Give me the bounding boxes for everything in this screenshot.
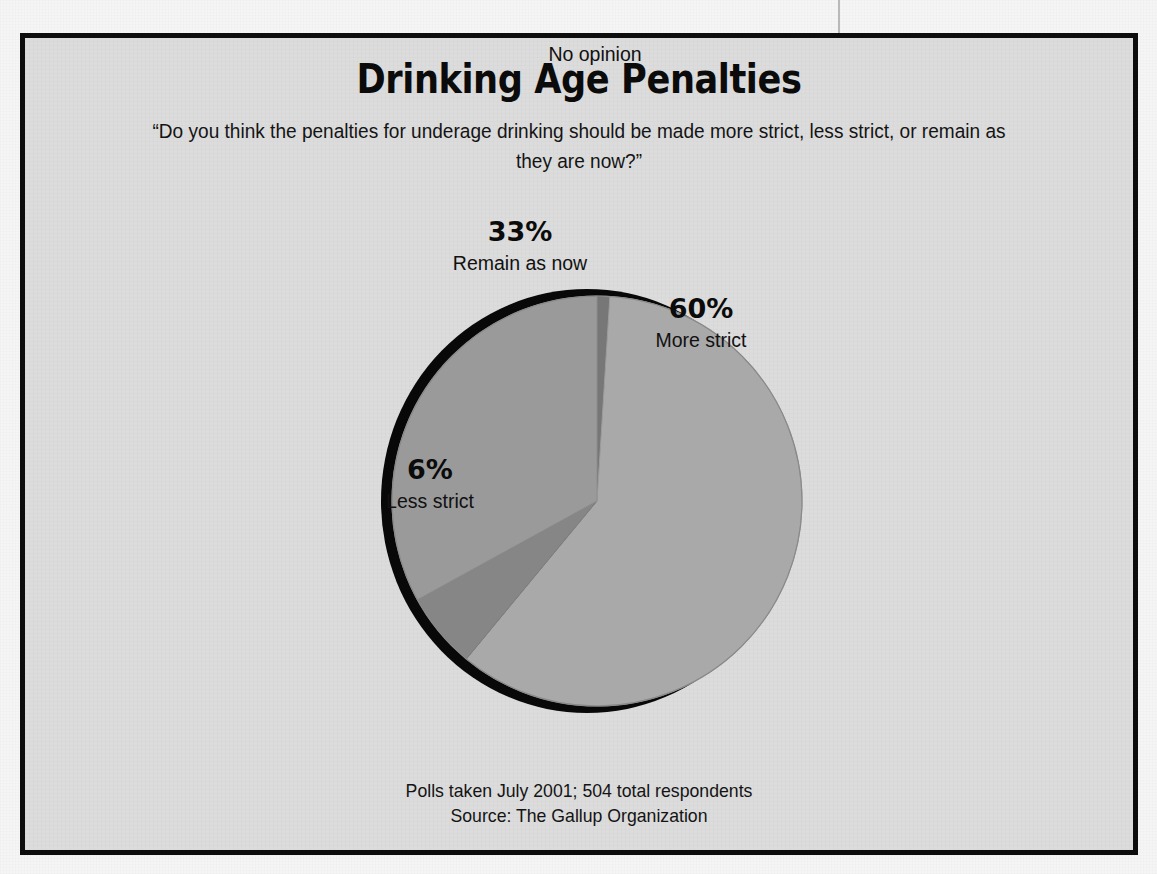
label-remain-as-now-value: 33% — [488, 216, 553, 247]
label-more-strict-value: 60% — [669, 293, 734, 324]
label-remain-as-now-category: Remain as now — [453, 252, 588, 274]
scan-artifact-line — [838, 0, 840, 36]
page-background: Drinking Age Penalties “Do you think the… — [0, 0, 1157, 874]
footnote-line-1: Polls taken July 2001; 504 total respond… — [64, 778, 1094, 803]
label-more-strict-category: More strict — [655, 329, 747, 351]
footnote-line-2: Source: The Gallup Organization — [64, 803, 1094, 828]
label-no-opinion-category: No opinion — [548, 43, 641, 65]
label-no-opinion-value: 1% — [572, 38, 618, 39]
chart-panel: Drinking Age Penalties “Do you think the… — [25, 38, 1133, 850]
label-less-strict-value: 6% — [407, 454, 453, 485]
chart-footnote: Polls taken July 2001; 504 total respond… — [64, 778, 1094, 828]
label-less-strict-category: Less strict — [386, 490, 474, 512]
pie-chart: 1% No opinion 33% Remain as now 60% More… — [25, 38, 1133, 850]
chart-frame: Drinking Age Penalties “Do you think the… — [20, 33, 1138, 855]
